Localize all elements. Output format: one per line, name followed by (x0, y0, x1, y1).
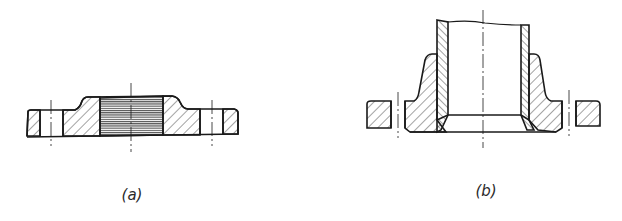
flange-drawings (0, 0, 622, 221)
threaded-bore (100, 96, 163, 136)
caption-b: (b) (475, 182, 496, 200)
left-flange-section (367, 101, 391, 128)
threaded-flange-drawing (27, 83, 238, 152)
right-hub-section (163, 96, 200, 135)
left-flange-section (27, 110, 40, 136)
caption-a: (a) (122, 186, 143, 204)
right-hub-section (529, 54, 562, 132)
pipe-break-line (448, 21, 521, 25)
right-flange-section (223, 109, 238, 134)
right-flange-section (576, 101, 600, 126)
weld-neck-flange-drawing (367, 10, 600, 148)
